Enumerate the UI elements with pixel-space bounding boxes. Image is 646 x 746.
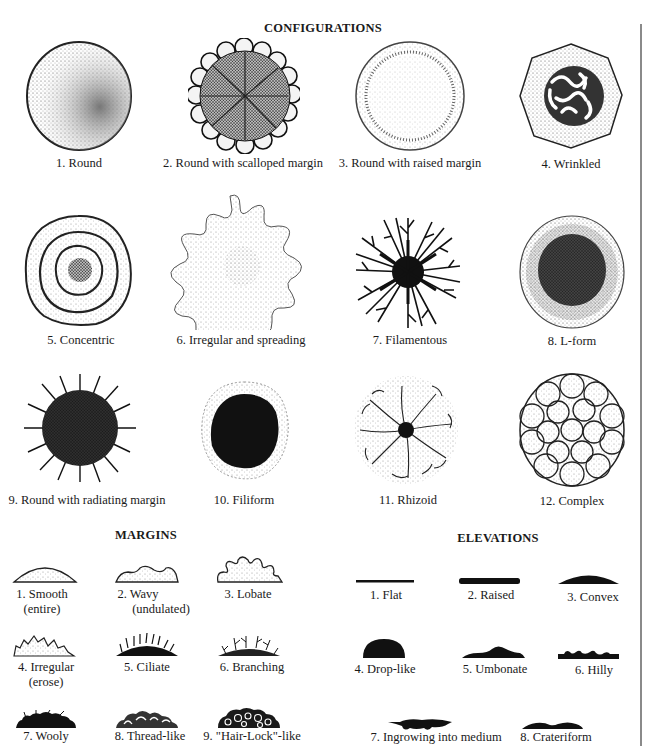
elevation-label-4: 4. Drop-like [350,662,420,677]
margin-label-7: 7. Wooly [8,729,84,744]
config-rhizoid-figure [352,374,460,486]
config-filiform-figure [196,378,292,484]
margin-ciliate-figure [114,632,180,658]
elevation-hilly-figure [558,648,620,660]
config-label-3: 3. Round with raised margin [330,156,490,171]
margin-label-5: 5. Ciliate [112,660,182,675]
elevation-crateriform-figure [522,720,584,730]
config-label-6: 6. Irregular and spreading [166,333,316,348]
config-label-10: 10. Filiform [194,493,294,508]
config-label-8: 8. L-form [520,334,624,349]
margin-label-8: 8. Thread-like [108,729,192,744]
margin-thread-like-figure [114,708,180,730]
elevation-drop-like-figure [362,639,406,659]
config-raised-margin-figure [354,40,466,152]
config-label-7: 7. Filamentous [340,333,480,348]
margin-label-9: 9. "Hair-Lock"-like [202,729,302,744]
config-irregular-spreading-figure [170,190,310,330]
margin-label-2: 2. Wavy [108,587,168,602]
config-scalloped-figure [188,38,300,154]
configurations-heading: CONFIGURATIONS [220,21,426,36]
config-l-form-figure [518,214,626,330]
elevation-label-7: 7. Ingrowing into medium [356,730,516,745]
elevation-label-3: 3. Convex [560,590,626,605]
config-label-12: 12. Complex [520,494,624,509]
margin-label-4: 4. Irregular [4,660,88,675]
config-concentric-figure [20,212,136,328]
config-radiating-margin-figure [22,372,138,484]
elevation-label-6: 6. Hilly [566,663,622,678]
margin-smooth-figure [12,560,78,584]
elevation-convex-figure [558,571,620,585]
config-label-5: 5. Concentric [16,333,146,348]
margin-irregular-figure [12,634,76,658]
elevation-umbonate-figure [462,645,526,659]
page-right-border [640,24,642,746]
config-filamentous-figure [352,214,464,330]
config-round-figure [24,40,134,152]
elevation-label-5: 5. Umbonate [458,662,532,677]
margin-wooly-figure [14,710,78,730]
margin-label-6: 6. Branching [212,660,292,675]
config-label-11: 11. Rhizoid [358,493,458,508]
config-label-2: 2. Round with scalloped margin [158,156,328,171]
margin-label-3: 3. Lobate [212,587,284,602]
config-complex-figure [518,372,626,488]
margins-heading: MARGINS [96,528,196,543]
config-wrinkled-figure [516,40,626,152]
margin-wavy-figure [114,562,180,584]
margin-lobate-figure [216,556,284,584]
elevation-label-8: 8. Crateriform [516,730,596,745]
elevations-heading: ELEVATIONS [440,531,556,546]
margin-label-1: 1. Smooth [4,587,80,602]
config-label-1: 1. Round [14,156,144,171]
config-label-4: 4. Wrinkled [516,157,626,172]
margin-branching-figure [216,632,282,658]
margin-sublabel-1: (entire) [4,602,80,617]
margin-hair-lock-like-figure [216,706,282,730]
elevation-label-1: 1. Flat [356,588,416,603]
config-label-9: 9. Round with radiating margin [2,493,172,508]
margin-sublabel-2: (undulated) [126,602,196,617]
elevation-flat-figure [356,579,416,585]
elevation-raised-figure [459,577,521,585]
margin-sublabel-4: (erose) [4,675,88,690]
elevation-label-2: 2. Raised [458,588,524,603]
